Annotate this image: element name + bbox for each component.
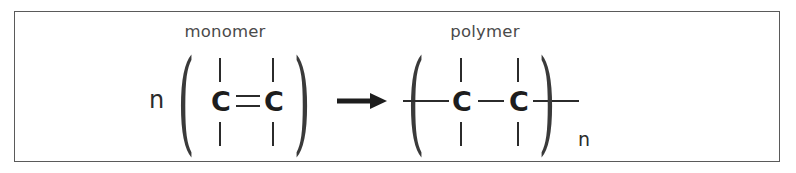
reaction-diagram: monomer polymer n ( C C ) <box>15 12 781 163</box>
monomer-close-paren: ) <box>293 45 310 158</box>
polymer-close-paren: ) <box>538 45 555 158</box>
polymer-left-bond-up <box>460 58 462 82</box>
monomer-left-bond-up <box>219 58 221 82</box>
right-arrow-icon <box>337 92 387 110</box>
monomer-left-carbon: C <box>211 88 231 115</box>
polymer-repeat-subscript: n <box>578 130 590 149</box>
monomer-right-bond-down <box>272 122 274 146</box>
monomer-right-bond-up <box>272 58 274 82</box>
monomer-open-paren: ( <box>177 45 194 158</box>
polymer-right-bond-up <box>517 58 519 82</box>
polymer-left-carbon: C <box>452 88 472 115</box>
monomer-label: monomer <box>135 22 315 41</box>
polymer-single-bond <box>478 100 504 102</box>
monomer-structure: n ( C C ) <box>143 50 333 154</box>
monomer-left-bond-down <box>219 122 221 146</box>
polymer-right-bond-down <box>517 122 519 146</box>
polymer-left-bond-down <box>460 122 462 146</box>
monomer-coefficient-n: n <box>149 88 164 112</box>
polymer-right-carbon: C <box>509 88 529 115</box>
polymer-left-chain-bond <box>403 100 449 102</box>
figure-border: monomer polymer n ( C C ) <box>14 11 780 162</box>
polymer-structure: ( C C ) n <box>393 50 623 154</box>
monomer-right-carbon: C <box>264 88 284 115</box>
